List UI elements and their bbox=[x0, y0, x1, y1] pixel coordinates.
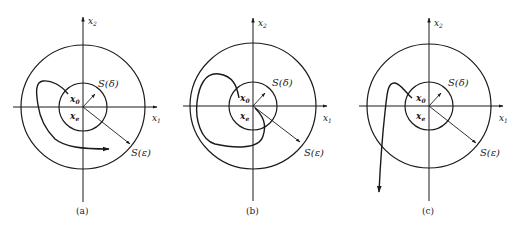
x2-label-a: x2 bbox=[88, 16, 97, 27]
caption-b: (b) bbox=[246, 206, 259, 216]
x0-label-a: x0 bbox=[69, 94, 80, 105]
xe-label-a: xe bbox=[69, 111, 79, 122]
s-delta-label-b: S(δ) bbox=[272, 77, 293, 88]
delta-radius-arrow bbox=[83, 94, 95, 107]
trajectory bbox=[197, 74, 265, 147]
panel-c bbox=[359, 18, 503, 201]
xe-label-c: xe bbox=[415, 111, 425, 122]
delta-radius-arrow bbox=[429, 93, 441, 106]
s-epsilon-label-b: S(ε) bbox=[304, 147, 324, 158]
caption-c: (c) bbox=[422, 206, 434, 216]
stability-figure: S(δ) S(ε) x0 xe x1 x2 (a) S(δ) S(ε) x0 x… bbox=[0, 0, 522, 230]
delta-radius-arrow bbox=[253, 93, 265, 106]
x2-label-b: x2 bbox=[258, 18, 267, 29]
x1-label-b: x1 bbox=[323, 113, 332, 124]
x2-label-c: x2 bbox=[434, 18, 443, 29]
x0-label-c: x0 bbox=[415, 93, 426, 104]
s-epsilon-label-a: S(ε) bbox=[131, 147, 151, 158]
caption-a: (a) bbox=[76, 206, 88, 216]
trajectory bbox=[379, 83, 412, 192]
s-delta-label-a: S(δ) bbox=[98, 78, 119, 89]
x1-label-c: x1 bbox=[499, 113, 508, 124]
x0-label-b: x0 bbox=[239, 93, 250, 104]
panel-a bbox=[13, 17, 157, 202]
panel-b bbox=[183, 18, 327, 201]
s-delta-label-c: S(δ) bbox=[448, 77, 469, 88]
s-epsilon-label-c: S(ε) bbox=[480, 147, 500, 158]
x1-label-a: x1 bbox=[152, 113, 161, 124]
xe-label-b: xe bbox=[239, 111, 249, 122]
